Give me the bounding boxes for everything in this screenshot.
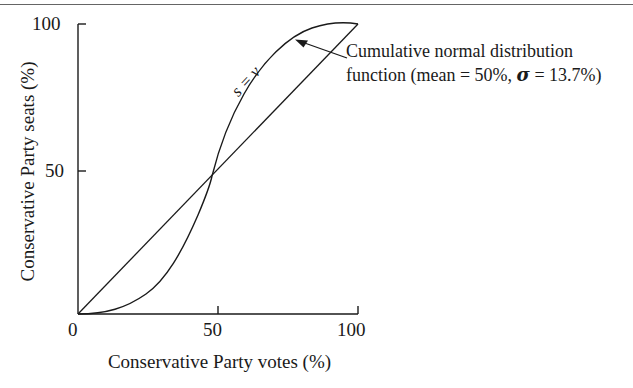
x-axis-tick-label-0: 0	[68, 320, 78, 339]
identity-line	[78, 24, 358, 314]
curve-annotation-line-1: Cumulative normal distribution	[346, 40, 631, 63]
y-axis-tick-label-50: 50	[45, 161, 64, 180]
x-axis-tick-label-50: 50	[203, 320, 222, 339]
curve-annotation-line-2-suffix: = 13.7%)	[530, 65, 602, 85]
curve-annotation: Cumulative normal distribution function …	[346, 40, 631, 87]
x-axis-title: Conservative Party votes (%)	[78, 352, 361, 371]
curve-annotation-line-2-prefix: function (mean = 50%,	[346, 65, 517, 85]
sigma-symbol: σ	[517, 64, 530, 85]
y-axis-title: Conservative Party seats (%)	[18, 27, 37, 317]
curve-annotation-line-2: function (mean = 50%, σ = 13.7%)	[346, 63, 631, 87]
annotation-arrowhead	[295, 40, 308, 48]
figure-panel: 100 50 0 50 100 Conservative Party votes…	[0, 0, 633, 388]
x-axis-tick-label-100: 100	[337, 320, 366, 339]
